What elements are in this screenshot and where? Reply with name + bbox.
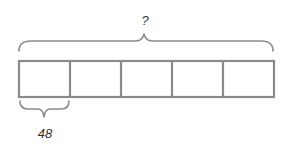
segment-brace (20, 101, 69, 117)
tape-diagram: ? 48 (0, 0, 288, 151)
total-label: ? (141, 13, 148, 28)
total-brace (19, 34, 273, 51)
tape-outline (19, 61, 274, 97)
segment-label: 48 (38, 126, 52, 141)
